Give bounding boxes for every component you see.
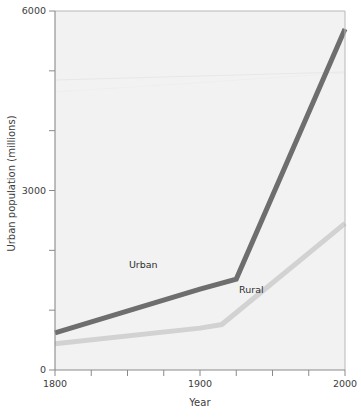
x-tick-label: 1800 bbox=[32, 379, 78, 389]
series-label-rural: Rural bbox=[239, 284, 264, 295]
y-axis-title: Urban population (millions) bbox=[6, 104, 17, 264]
y-axis-ticks bbox=[49, 11, 55, 370]
chart-canvas bbox=[0, 0, 361, 419]
x-axis-title: Year bbox=[55, 397, 345, 408]
y-axis-title-wrapper: Urban population (millions) bbox=[0, 0, 20, 370]
x-axis-ticks bbox=[55, 370, 345, 376]
x-tick-label: 1900 bbox=[177, 379, 223, 389]
series-label-urban: Urban bbox=[129, 259, 158, 270]
chart-figure: 030006000 180019002000 UrbanRural Urban … bbox=[0, 0, 361, 419]
plot-area-background bbox=[55, 11, 345, 370]
x-tick-label: 2000 bbox=[322, 379, 361, 389]
